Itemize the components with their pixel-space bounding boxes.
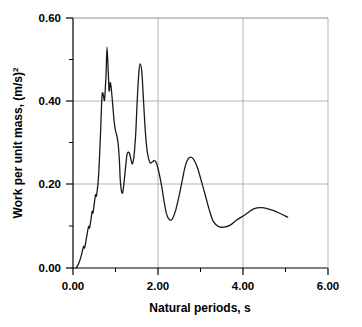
grid-vertical	[158, 18, 243, 268]
chart-figure: 0.60 0.40 0.20 0.00 0.00 2.00 4.00 6.00 …	[0, 0, 362, 327]
x-axis-title: Natural periods, s	[149, 301, 251, 315]
y-axis-title: Work per unit mass, (m/s)2	[11, 67, 25, 218]
x-tick-label: 0.00	[62, 280, 84, 292]
line-chart: 0.60 0.40 0.20 0.00 0.00 2.00 4.00 6.00 …	[0, 0, 362, 327]
y-tick-label: 0.20	[39, 178, 61, 190]
y-tick-label: 0.00	[39, 262, 61, 274]
x-tick-label: 4.00	[232, 280, 254, 292]
y-axis-title-exponent: 2	[11, 67, 20, 72]
data-series-line	[76, 47, 288, 268]
y-tick-label: 0.60	[39, 12, 61, 24]
x-tick-labels: 0.00 2.00 4.00 6.00	[62, 280, 339, 292]
grid-horizontal	[73, 18, 328, 184]
x-tick-label: 2.00	[147, 280, 169, 292]
y-tick-label: 0.40	[39, 95, 61, 107]
plot-frame	[73, 18, 328, 268]
y-tick-labels: 0.60 0.40 0.20 0.00	[39, 12, 61, 274]
y-axis-title-base: Work per unit mass, (m/s)	[11, 72, 25, 218]
x-tick-label: 6.00	[317, 280, 339, 292]
